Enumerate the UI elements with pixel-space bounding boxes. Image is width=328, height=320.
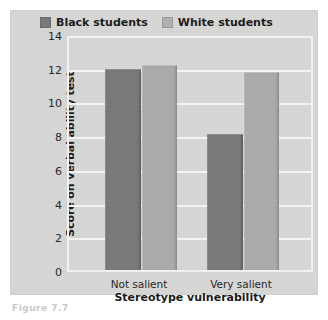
legend-label-black-students: Black students — [56, 16, 148, 29]
bar-not-salient-black-students — [105, 69, 141, 270]
bar-not-salient-white-students — [142, 65, 177, 270]
chart-legend: Black students White students — [40, 16, 273, 29]
x-axis-title: Stereotype vulnerability — [67, 291, 313, 304]
y-axis-title-wrapper: Score on verbal ability test — [32, 36, 48, 272]
figure-container: Black students White students 0 2 4 6 8 … — [0, 0, 328, 320]
x-tick-very-salient: Very salient — [210, 278, 272, 290]
x-tick-not-salient: Not salient — [111, 278, 168, 290]
legend-item-black-students: Black students — [40, 16, 148, 29]
gridline-14 — [69, 36, 311, 38]
figure-caption: Figure 7.7 — [12, 303, 69, 313]
legend-label-white-students: White students — [178, 16, 273, 29]
x-axis-ticks: Not salient Very salient — [67, 278, 313, 292]
chart-panel: Black students White students 0 2 4 6 8 … — [10, 10, 318, 295]
legend-swatch-black-students-icon — [40, 17, 51, 28]
bar-very-salient-black-students — [207, 134, 243, 271]
legend-item-white-students: White students — [162, 16, 273, 29]
bar-very-salient-white-students — [244, 72, 279, 270]
plot-area — [67, 36, 313, 272]
legend-swatch-white-students-icon — [162, 17, 173, 28]
